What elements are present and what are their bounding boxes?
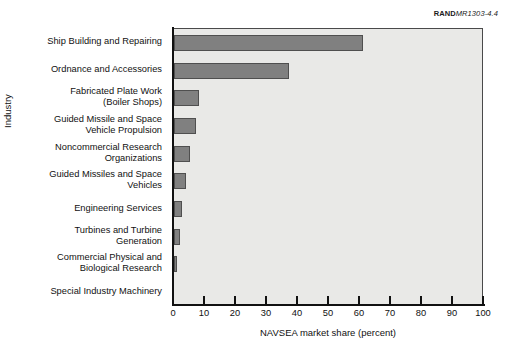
x-axis-tick-label: 70 [385, 308, 395, 318]
bar-row [174, 84, 482, 112]
y-axis-tick-label: Guided Missiles and Space Vehicles [0, 167, 167, 195]
x-axis-tick [420, 296, 421, 304]
x-axis-tick [265, 296, 266, 304]
y-axis-line [172, 27, 174, 306]
x-axis-tick-label: 60 [354, 308, 364, 318]
x-axis-tick [203, 296, 204, 304]
bar [174, 35, 363, 51]
y-axis-tick-label-text: Fabricated Plate Work (Boiler Shops) [70, 86, 162, 108]
y-axis-tick-label-text: Guided Missile and Space Vehicle Propuls… [54, 114, 162, 136]
plot-area [173, 28, 483, 305]
bar [174, 201, 182, 217]
figure-credit: RANDMR1303-4.4 [434, 9, 498, 18]
y-axis-tick-label-text: Turbines and Turbine Generation [74, 225, 162, 247]
y-axis-tick-label: Special Industry Machinery [0, 277, 167, 305]
credit-brand: RAND [434, 9, 456, 18]
y-axis-tick-label-text: Noncommercial Research Organizations [55, 142, 162, 164]
y-axis-tick-label-text: Special Industry Machinery [50, 286, 162, 297]
bar [174, 229, 180, 245]
y-axis-tick-label-text: Ordnance and Accessories [51, 64, 162, 75]
x-axis-tick [172, 296, 173, 304]
bar-row [174, 168, 482, 196]
bar-row [174, 140, 482, 168]
x-axis-tick-label: 40 [292, 308, 302, 318]
x-axis-tick [389, 296, 390, 304]
x-axis-tick [234, 296, 235, 304]
y-axis-tick-label: Turbines and Turbine Generation [0, 222, 167, 250]
bar [174, 63, 289, 79]
y-axis-tick-label-text: Ship Building and Repairing [47, 36, 162, 47]
y-axis-tick-label: Ordnance and Accessories [0, 56, 167, 84]
y-axis-tick-label-text: Commercial Physical and Biological Resea… [57, 252, 162, 274]
x-axis-tick [482, 296, 483, 304]
bar-row [174, 223, 482, 251]
x-axis-title: NAVSEA market share (percent) [173, 327, 483, 338]
x-axis-tick-label: 50 [323, 308, 333, 318]
bar [174, 173, 186, 189]
x-axis-tick-label: 90 [447, 308, 457, 318]
y-axis-tick-label: Fabricated Plate Work (Boiler Shops) [0, 83, 167, 111]
bar-row [174, 195, 482, 223]
figure-container: RANDMR1303-4.4 Ship Building and Repairi… [0, 0, 512, 356]
y-axis-tick-label: Guided Missile and Space Vehicle Propuls… [0, 111, 167, 139]
x-axis-line [172, 304, 485, 306]
y-axis-title: Industry [2, 94, 13, 128]
credit-number: MR1303-4.4 [456, 9, 498, 18]
bar [174, 118, 196, 134]
bar [174, 256, 177, 272]
y-axis-tick-label-text: Guided Missiles and Space Vehicles [49, 169, 162, 191]
x-axis-tick-label: 20 [230, 308, 240, 318]
x-axis-tick [327, 296, 328, 304]
x-axis-tick-label: 80 [416, 308, 426, 318]
y-axis-tick-label: Noncommercial Research Organizations [0, 139, 167, 167]
x-axis-tick [296, 296, 297, 304]
x-axis-tick-label: 30 [261, 308, 271, 318]
y-axis-tick-label: Engineering Services [0, 194, 167, 222]
y-axis-tick-label-text: Engineering Services [74, 203, 162, 214]
y-axis-tick-label: Commercial Physical and Biological Resea… [0, 250, 167, 278]
bar-row [174, 29, 482, 57]
bar [174, 146, 190, 162]
y-axis-tick-label: Ship Building and Repairing [0, 28, 167, 56]
bar-row [174, 57, 482, 85]
x-axis-tick-label: 10 [199, 308, 209, 318]
bar-row [174, 251, 482, 279]
x-axis-tick-label: 100 [475, 308, 491, 318]
x-axis-tick-label: 0 [170, 308, 175, 318]
x-axis-tick [358, 296, 359, 304]
bar-row [174, 112, 482, 140]
bar [174, 90, 199, 106]
x-axis-tick [451, 296, 452, 304]
